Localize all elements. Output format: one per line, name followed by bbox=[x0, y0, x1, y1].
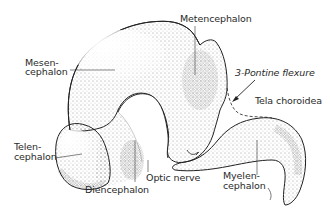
label-telencephalon-line2: cephalon bbox=[14, 152, 57, 163]
label-myelencephalon-line2: cephalon bbox=[223, 181, 266, 192]
label-metencephalon: Metencephalon bbox=[180, 14, 252, 25]
label-diencephalon: Diencephalon bbox=[85, 185, 149, 196]
brain-vesicles-diagram: Metencephalon Mesen- cephalon 3-Pontine … bbox=[0, 0, 330, 217]
brain-outline-drawing bbox=[0, 0, 330, 217]
label-optic-nerve: Optic nerve bbox=[146, 173, 200, 184]
label-mesencephalon-line2: cephalon bbox=[25, 67, 68, 78]
pontine-flexure-arrow bbox=[232, 80, 255, 102]
label-pontine-flexure: 3-Pontine flexure bbox=[235, 68, 315, 79]
label-tela-choroidea: Tela choroidea bbox=[255, 96, 322, 107]
